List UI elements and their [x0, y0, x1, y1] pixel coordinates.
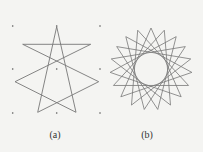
panel-a-label: (a)	[49, 129, 60, 141]
grid-dot	[12, 68, 14, 70]
grid-dot	[12, 25, 14, 27]
panel-b-star-polygon	[110, 28, 192, 109]
grid-dot	[99, 25, 101, 27]
panel-b-label: (b)	[141, 129, 153, 141]
grid-dot	[99, 112, 101, 114]
panel-a-heptagram	[12, 25, 101, 114]
grid-dot	[56, 25, 58, 27]
grid-dot	[56, 112, 58, 114]
figure-canvas: (a) (b)	[0, 0, 203, 152]
star-polygon-outline	[110, 28, 192, 109]
grid-dot	[12, 112, 14, 114]
grid-dot	[56, 68, 58, 70]
grid-dot	[99, 68, 101, 70]
